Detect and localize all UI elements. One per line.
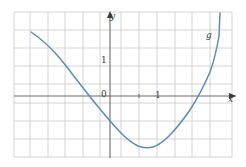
origin-label: 0 — [101, 90, 107, 99]
figure-canvas: 0 1 1 y x g — [0, 0, 246, 167]
curve-label-g: g — [206, 31, 212, 40]
figure-background — [0, 0, 246, 167]
x-axis-label: x — [228, 95, 233, 104]
y-axis-label: y — [110, 12, 115, 21]
y-tick-label-one: 1 — [101, 56, 107, 65]
coordinate-plane-graph — [0, 0, 246, 167]
x-tick-label-one: 1 — [155, 91, 161, 100]
